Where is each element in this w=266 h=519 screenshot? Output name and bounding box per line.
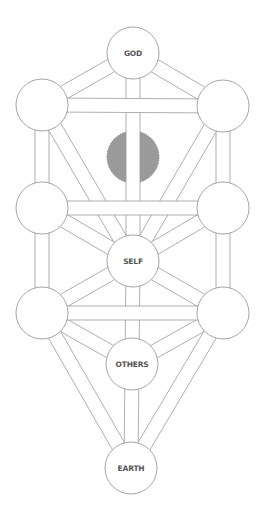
node-circle-upper-right bbox=[197, 80, 249, 132]
node-label-earth: EARTH bbox=[118, 464, 145, 473]
node-lower-left bbox=[16, 287, 68, 339]
node-label-god: GOD bbox=[124, 49, 142, 58]
path-middle-left-middle-right bbox=[42, 201, 223, 215]
node-middle-left bbox=[16, 182, 68, 234]
path-upper-left-upper-right bbox=[42, 98, 223, 113]
node-middle-right bbox=[197, 182, 249, 234]
node-label-self: SELF bbox=[123, 257, 143, 266]
node-circle-middle-right bbox=[197, 182, 249, 234]
node-upper-left bbox=[16, 79, 68, 131]
node-circle-lower-left bbox=[16, 287, 68, 339]
node-lower-right bbox=[197, 287, 249, 339]
node-god: GOD bbox=[107, 27, 159, 79]
tree-of-life-diagram: GOD SELF OTH bbox=[0, 0, 266, 519]
node-circle-middle-left bbox=[16, 182, 68, 234]
path-lower-left-lower-right bbox=[42, 306, 223, 320]
node-circle-lower-right bbox=[197, 287, 249, 339]
node-self: SELF bbox=[107, 235, 159, 287]
node-earth: EARTH bbox=[105, 442, 157, 494]
node-others: OTHERS bbox=[106, 338, 158, 390]
node-circle-upper-left bbox=[16, 79, 68, 131]
node-label-others: OTHERS bbox=[116, 360, 149, 369]
path-god-self bbox=[126, 53, 140, 261]
node-upper-right bbox=[197, 80, 249, 132]
